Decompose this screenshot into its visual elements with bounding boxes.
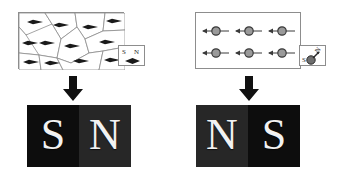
key-magnet-icon xyxy=(300,46,327,67)
pole-label-right: S xyxy=(262,113,286,157)
down-arrow-icon-left xyxy=(62,76,84,102)
right-orientation-key-box: S N xyxy=(299,45,326,66)
aligned-dipole-icon xyxy=(235,27,262,35)
pole-label-right: N xyxy=(89,113,121,157)
pole-label-left: S xyxy=(41,113,65,157)
aligned-dipoles-graphic xyxy=(196,13,302,70)
aligned-dipole-icon xyxy=(235,49,262,57)
bar-magnet-left-pole: S xyxy=(27,105,79,167)
aligned-dipole-sample-box xyxy=(195,12,301,69)
domain-cells-graphic xyxy=(19,13,125,70)
aligned-dipole-icon xyxy=(202,27,229,35)
figure-canvas: S N S N S N xyxy=(0,0,340,177)
bar-magnet-left-pole: N xyxy=(196,105,248,167)
bar-magnet-right-pole: N xyxy=(79,105,131,167)
random-domain-sample-box xyxy=(18,12,124,69)
key-magnet-icon xyxy=(119,46,146,67)
aligned-dipole-icon xyxy=(202,49,229,57)
bar-magnet-right-pole: S xyxy=(248,105,300,167)
bar-magnet-magnetized-result: N S xyxy=(196,105,300,167)
aligned-dipole-icon xyxy=(268,27,295,35)
down-arrow-icon-right xyxy=(238,76,260,102)
aligned-dipole-icon xyxy=(268,49,295,57)
bar-magnet-unmagnetized-result: S N xyxy=(27,105,131,167)
left-orientation-key-box: S N xyxy=(118,45,145,66)
pole-label-left: N xyxy=(206,113,238,157)
